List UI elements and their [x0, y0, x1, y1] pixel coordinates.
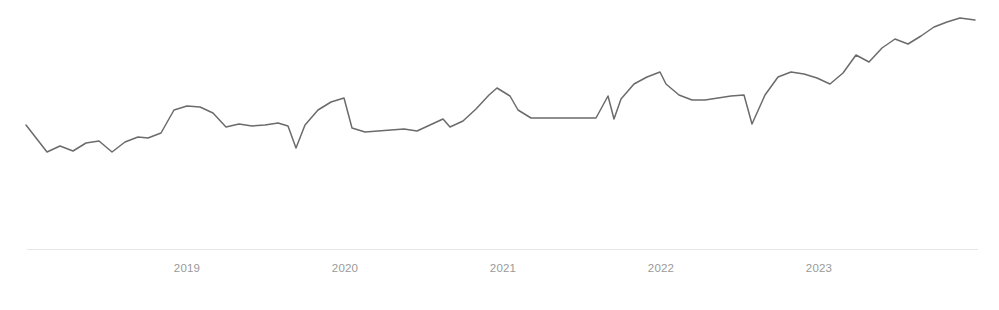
data-series-line[interactable] [26, 18, 975, 152]
x-axis-tick-label: 2022 [648, 263, 674, 275]
x-axis-tick-label: 2021 [490, 263, 516, 275]
x-axis-tick-label: 2023 [806, 263, 832, 275]
chart-caption [0, 292, 999, 301]
line-chart-figure: 20192020202120222023 [0, 0, 999, 310]
x-axis-tick-label: 2019 [174, 263, 200, 275]
x-axis-tick-label: 2020 [332, 263, 358, 275]
